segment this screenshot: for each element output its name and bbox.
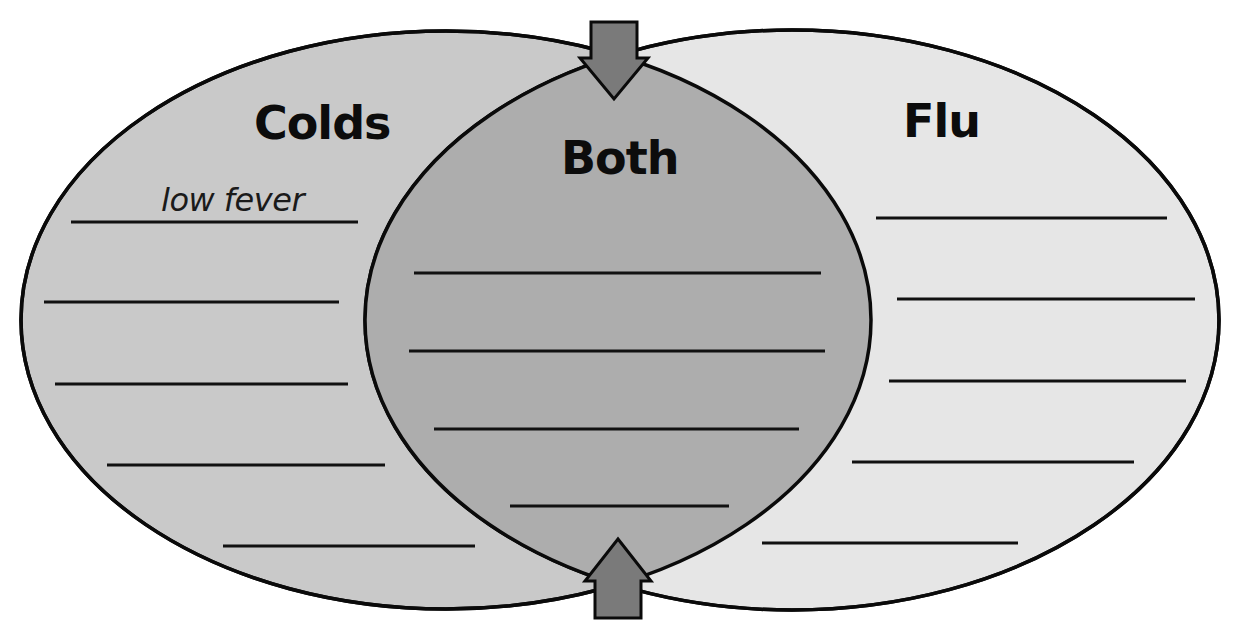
flu-heading: Flu (903, 94, 980, 148)
both-heading: Both (561, 131, 678, 185)
venn-diagram: Colds Both Flu low fever (0, 0, 1235, 639)
colds-heading: Colds (254, 96, 390, 150)
colds-entry-1-text: low fever (161, 181, 306, 219)
